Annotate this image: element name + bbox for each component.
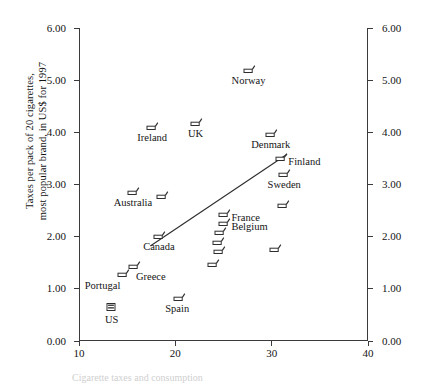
y-tick-r: [368, 132, 373, 133]
x-tick: [79, 341, 80, 346]
y-tick-label: 6.00: [47, 23, 66, 34]
data-point-label: Australia: [114, 197, 153, 208]
data-point-finland: [276, 153, 287, 161]
data-point-unlabeled: [212, 237, 223, 245]
data-point-us: [106, 303, 117, 311]
data-point-unlabeled: [213, 246, 224, 254]
y-tick-label: 4.00: [47, 127, 66, 138]
y-tick-label: 5.00: [382, 75, 401, 86]
x-tick: [271, 341, 272, 346]
data-point-france: [219, 209, 230, 217]
y-tick-r: [368, 80, 373, 81]
y-tick-label: 3.00: [382, 179, 401, 190]
data-point-label: Norway: [232, 75, 266, 86]
plot-area: NorwayIrelandUKDenmarkFinlandSwedenAustr…: [79, 28, 368, 341]
data-point-label: Denmark: [251, 139, 290, 150]
x-tick-label: 20: [170, 348, 181, 359]
y-tick-l: [74, 28, 79, 29]
y-tick-label: 0.00: [47, 336, 66, 347]
y-tick-label: 1.00: [382, 283, 401, 294]
figure-caption: Cigarette taxes and consumption: [72, 372, 203, 383]
y-tick-r: [368, 236, 373, 237]
data-point-australia: [127, 187, 138, 195]
data-point-unlabeled: [156, 191, 167, 199]
data-point-belgium: [219, 218, 230, 226]
x-tick: [175, 341, 176, 346]
y-tick-l: [74, 236, 79, 237]
y-tick-label: 2.00: [382, 231, 401, 242]
y-tick-l: [74, 184, 79, 185]
data-point-label: US: [105, 314, 118, 325]
data-point-unlabeled: [278, 200, 289, 208]
x-tick: [368, 341, 369, 346]
y-tick-l: [74, 80, 79, 81]
trend-line: [79, 28, 368, 341]
data-point-label: Portugal: [85, 280, 121, 291]
data-point-label: Greece: [136, 271, 166, 282]
x-tick-label: 40: [363, 348, 374, 359]
data-point-label: Sweden: [268, 179, 301, 190]
data-point-label: Spain: [165, 303, 189, 314]
y-tick-label: 6.00: [382, 23, 401, 34]
data-point-spain: [174, 293, 185, 301]
y-tick-label: 2.00: [47, 231, 66, 242]
data-point-greece: [128, 261, 139, 269]
data-point-unlabeled: [214, 227, 225, 235]
y-tick-l: [74, 288, 79, 289]
data-point-sweden: [279, 169, 290, 177]
data-point-unlabeled: [269, 244, 280, 252]
data-point-uk: [190, 118, 201, 126]
data-point-label: Belgium: [231, 221, 267, 232]
data-point-portugal: [118, 269, 129, 277]
y-tick-label: 1.00: [47, 283, 66, 294]
y-tick-r: [368, 184, 373, 185]
data-point-denmark: [265, 129, 276, 137]
data-point-unlabeled: [207, 259, 218, 267]
y-tick-label: 0.00: [382, 336, 401, 347]
data-point-canada: [153, 231, 164, 239]
x-tick-label: 30: [266, 348, 277, 359]
data-point-label: UK: [188, 128, 203, 139]
y-tick-label: 3.00: [47, 179, 66, 190]
y-axis-title: Taxes per pack of 20 cigarettes, most po…: [23, 21, 49, 261]
data-point-label: Finland: [288, 156, 320, 167]
data-point-label: Canada: [143, 241, 175, 252]
y-tick-label: 4.00: [382, 127, 401, 138]
x-tick-label: 10: [74, 348, 85, 359]
data-point-label: Ireland: [137, 132, 167, 143]
data-point-norway: [243, 65, 254, 73]
y-tick-r: [368, 341, 373, 342]
y-tick-l: [74, 132, 79, 133]
data-point-ireland: [147, 122, 158, 130]
y-tick-r: [368, 288, 373, 289]
y-tick-label: 5.00: [47, 75, 66, 86]
y-tick-r: [368, 28, 373, 29]
